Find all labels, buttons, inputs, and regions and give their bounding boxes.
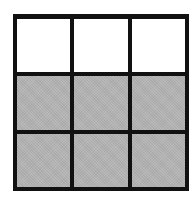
grid-cell-r1-c3-empty [132, 19, 185, 72]
grid-cell-r3-c2-shaded [74, 134, 127, 187]
grid-cell-r1-c2-empty [74, 19, 127, 72]
grid-cell-r2-c3-shaded [132, 76, 185, 129]
grid-cell-r1-c1-empty [17, 19, 70, 72]
grid-cell-r2-c2-shaded [74, 76, 127, 129]
grid-cell-r2-c1-shaded [17, 76, 70, 129]
grid-3x3 [13, 14, 189, 191]
grid-cell-r3-c3-shaded [132, 134, 185, 187]
grid-cell-r3-c1-shaded [17, 134, 70, 187]
